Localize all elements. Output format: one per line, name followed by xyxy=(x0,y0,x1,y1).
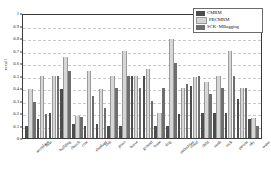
x-tick-label: bone xyxy=(153,140,162,149)
bar xyxy=(245,88,248,138)
bar xyxy=(209,94,212,138)
bar xyxy=(52,76,57,139)
x-tick-label: rock xyxy=(225,140,233,148)
bar xyxy=(256,126,259,139)
bar xyxy=(110,76,115,139)
y-tick-label: 1 xyxy=(17,12,19,17)
bar-group xyxy=(224,15,236,138)
bar-group xyxy=(154,15,166,138)
bar xyxy=(157,113,162,138)
bar xyxy=(193,77,198,138)
x-tick-label: child xyxy=(202,140,211,149)
bar-group xyxy=(48,15,60,138)
bar-group xyxy=(248,15,260,138)
y-tick-label: 0 xyxy=(17,137,19,142)
legend-swatch xyxy=(196,11,205,16)
bar-group xyxy=(177,15,189,138)
bar xyxy=(228,51,233,139)
bar xyxy=(251,118,256,138)
x-tick-label: fish xyxy=(105,140,112,147)
bar xyxy=(233,76,236,139)
bar xyxy=(127,76,130,139)
x-tick-label: sky xyxy=(249,140,256,147)
bar-group xyxy=(213,15,225,138)
bar xyxy=(174,63,177,138)
y-tick-label: 0.8 xyxy=(13,37,19,42)
bar-groups xyxy=(23,15,261,138)
x-axis-labels: aeroplanebearbuildingchurchcowelephantfi… xyxy=(22,140,262,177)
bar xyxy=(63,57,68,138)
bar-group xyxy=(189,15,201,138)
x-tick-label: dog xyxy=(165,140,172,147)
legend: CMRMPBCMRMSCK+MBagging xyxy=(193,8,263,33)
legend-label: PBCMRM xyxy=(209,18,229,23)
bar-group xyxy=(236,15,248,138)
y-tick-label: 0.3 xyxy=(13,99,19,104)
y-tick-label: 0.9 xyxy=(13,24,19,29)
x-tick-label: cow xyxy=(81,140,89,148)
legend-item: SCK+MBagging xyxy=(196,24,260,31)
y-tick-label: 0.6 xyxy=(13,62,19,67)
bar xyxy=(181,88,186,138)
x-tick-label: earth xyxy=(214,140,223,149)
bar-group xyxy=(119,15,131,138)
legend-label: SCK+MBagging xyxy=(207,25,239,30)
x-tick-label: bear xyxy=(45,140,53,148)
bar xyxy=(92,96,95,139)
bar-group xyxy=(95,15,107,138)
y-tick-label: 0.1 xyxy=(13,124,19,129)
bar-group xyxy=(72,15,84,138)
bar xyxy=(204,82,209,138)
bar xyxy=(151,101,154,139)
y-tick-label: 0.7 xyxy=(13,49,19,54)
bar xyxy=(186,84,189,138)
bar-group xyxy=(142,15,154,138)
chart-figure: 00.10.20.30.40.50.60.70.80.91 recall aer… xyxy=(0,0,271,177)
legend-swatch xyxy=(196,25,205,30)
bar xyxy=(216,76,221,139)
bar xyxy=(75,116,80,139)
bar-group xyxy=(25,15,37,138)
bar-group xyxy=(107,15,119,138)
bar xyxy=(87,71,92,139)
bar xyxy=(80,117,83,138)
bar xyxy=(45,114,48,138)
y-tick-label: 0.5 xyxy=(13,74,19,79)
bar xyxy=(146,69,151,138)
bar xyxy=(139,88,142,138)
y-tick-label: 0.4 xyxy=(13,87,19,92)
legend-label: CMRM xyxy=(207,11,222,16)
legend-swatch xyxy=(196,17,207,24)
bar-group xyxy=(36,15,48,138)
y-axis-label: recall xyxy=(3,48,8,82)
bar xyxy=(57,76,60,139)
bar xyxy=(162,88,165,138)
bar-group xyxy=(201,15,213,138)
bar xyxy=(99,89,104,138)
bar-group xyxy=(166,15,178,138)
x-tick-label: church xyxy=(70,140,81,151)
bar xyxy=(104,108,107,138)
bar xyxy=(122,51,127,139)
bar xyxy=(115,88,118,138)
bar-group xyxy=(60,15,72,138)
bar xyxy=(221,88,224,138)
bar xyxy=(198,76,201,139)
legend-item: PBCMRM xyxy=(196,17,260,24)
bar xyxy=(33,102,36,138)
bar xyxy=(240,88,245,138)
x-tick-label: cloud xyxy=(190,140,200,149)
bar xyxy=(40,76,45,139)
x-tick-label: water xyxy=(262,140,271,149)
bar xyxy=(68,71,71,139)
bar xyxy=(134,76,139,139)
bar-group xyxy=(130,15,142,138)
bar-group xyxy=(83,15,95,138)
x-tick-label: horse xyxy=(130,140,140,149)
bar xyxy=(28,89,33,138)
x-tick-label: grass xyxy=(118,140,127,149)
legend-item: CMRM xyxy=(196,10,260,17)
bar xyxy=(169,39,174,138)
y-tick-label: 0.2 xyxy=(13,112,19,117)
